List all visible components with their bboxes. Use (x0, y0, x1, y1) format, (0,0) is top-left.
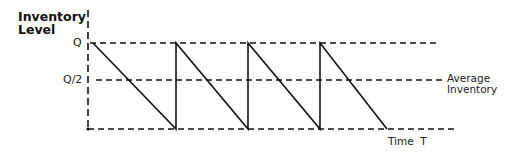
inventory-sawtooth-line (93, 43, 387, 129)
average-inventory-label: Average Inventory (447, 73, 497, 95)
inventory-sawtooth-diagram (0, 0, 508, 156)
average-label-line-2: Inventory (447, 84, 497, 95)
origin-dot (86, 127, 89, 130)
x-axis-title: Time T (388, 136, 427, 147)
